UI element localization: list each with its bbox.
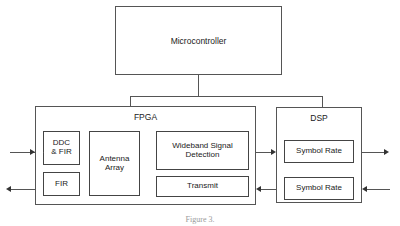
block-diagram: Microcontroller FPGA DDC & FIR FIR Anten…: [0, 0, 400, 226]
dsp-module-symbol-rate-bottom-label: Symbol Rate: [296, 184, 342, 193]
dsp-module-symbol-rate-bottom: Symbol Rate: [284, 177, 354, 200]
fpga-module-wideband-signal-detection: Wideband Signal Detection: [156, 131, 249, 170]
output-transmit-arrowhead: [6, 186, 11, 192]
microcontroller-label: Microcontroller: [115, 36, 282, 46]
bus-drop-to-fpga: [130, 96, 131, 106]
fpga-label: FPGA: [35, 112, 256, 122]
fpga-module-wideband-signal-detection-label: Wideband Signal Detection: [172, 142, 232, 160]
dsp-label: DSP: [276, 113, 362, 123]
input-receive-arrowhead: [30, 149, 35, 155]
fpga-module-ddc-fir-label: DDC & FIR: [51, 139, 71, 157]
dsp-input-line: [366, 189, 390, 190]
dsp-input-arrowhead: [362, 186, 367, 192]
fpga-module-transmit: Transmit: [156, 176, 249, 197]
dsp-output-line: [362, 152, 386, 153]
dsp-module-symbol-rate-top-label: Symbol Rate: [296, 147, 342, 156]
fpga-module-transmit-label: Transmit: [187, 182, 218, 191]
dsp-module-symbol-rate-top: Symbol Rate: [284, 140, 354, 163]
fpga-left-input-stub: [43, 152, 44, 153]
dsp-output-arrowhead: [384, 149, 389, 155]
output-transmit-line: [10, 189, 35, 190]
bus-drop-to-dsp: [322, 96, 323, 107]
fpga-to-dsp-arrowhead: [271, 149, 276, 155]
microcontroller-bus-horizontal: [130, 96, 323, 97]
fpga-module-antenna-array-label: Antenna Array: [100, 155, 130, 173]
microcontroller-bus-stem: [198, 75, 199, 96]
fpga-module-antenna-array: Antenna Array: [89, 131, 140, 196]
fpga-module-fir-label: FIR: [55, 180, 68, 189]
dsp-to-fpga-arrowhead: [256, 186, 261, 192]
fpga-module-ddc-fir: DDC & FIR: [43, 131, 80, 165]
fpga-module-fir: FIR: [43, 172, 80, 196]
dsp-to-fpga-line: [260, 189, 276, 190]
figure-caption: Figure 3.: [0, 215, 400, 224]
